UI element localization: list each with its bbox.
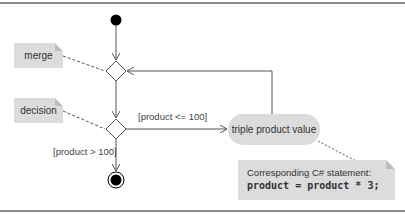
merge-node <box>106 61 126 81</box>
action-label: triple product value <box>232 124 317 135</box>
code-note-label: Corresponding C# statement: <box>247 167 395 179</box>
decision-note-label: decision <box>20 105 57 116</box>
merge-note: merge <box>14 43 63 68</box>
initial-node <box>111 15 122 26</box>
decision-node <box>106 119 126 139</box>
guard-exit: [product > 100] <box>53 146 117 157</box>
final-node <box>111 175 122 186</box>
code-note-statement: product = product * 3; <box>247 179 395 192</box>
merge-note-label: merge <box>24 50 52 61</box>
csharp-statement-note: Corresponding C# statement: product = pr… <box>238 160 395 200</box>
guard-loop: [product <= 100] <box>138 111 207 122</box>
decision-note: decision <box>14 98 63 123</box>
action-triple-product: triple product value <box>228 114 320 145</box>
